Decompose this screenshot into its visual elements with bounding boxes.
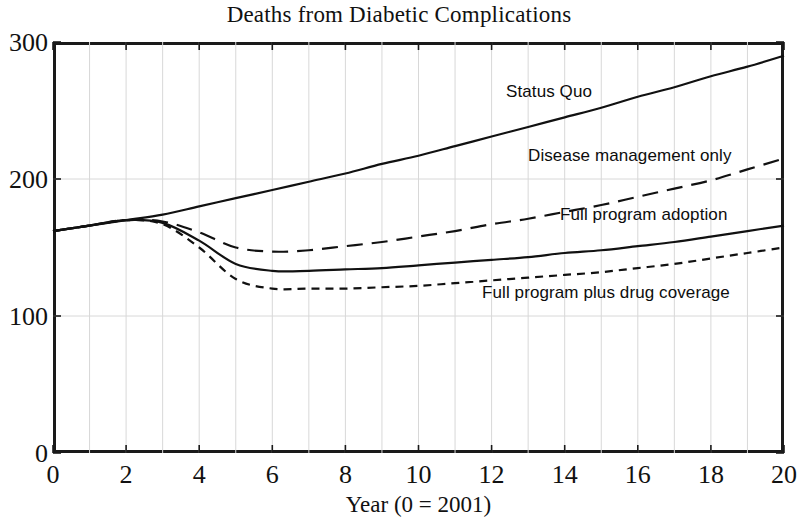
x-tick-label-text: 6 xyxy=(266,460,279,490)
x-tick-label-text: 16 xyxy=(625,460,651,490)
series-label-disease-management-only: Disease management only xyxy=(528,146,732,166)
x-tick-label-text: 10 xyxy=(406,460,432,490)
y-tick-label-text: 100 xyxy=(9,302,48,332)
y-tick-label-text: 200 xyxy=(9,165,48,195)
x-tick-label-text: 20 xyxy=(771,460,797,490)
series-label-full-program-adoption: Full program adoption xyxy=(560,205,727,225)
x-tick-label-text: 0 xyxy=(47,460,60,490)
series-label-status-quo: Status Quo xyxy=(506,82,592,102)
x-axis-label: Year (0 = 2001) xyxy=(53,492,784,518)
x-tick-label-text: 8 xyxy=(339,460,352,490)
vertical-gridlines xyxy=(90,42,748,453)
y-axis-tick-labels: 0100200300 xyxy=(0,0,48,515)
plot-canvas xyxy=(53,42,784,453)
x-tick-label-text: 14 xyxy=(552,460,578,490)
chart-title: Deaths from Diabetic Complications xyxy=(0,2,798,28)
series-label-full-program-plus-drug-coverage: Full program plus drug coverage xyxy=(482,283,730,303)
x-tick-label-text: 12 xyxy=(479,460,505,490)
x-tick-label-text: 2 xyxy=(120,460,133,490)
x-tick-label-text: 4 xyxy=(193,460,206,490)
x-tick-label-text: 18 xyxy=(698,460,724,490)
y-tick-label-text: 300 xyxy=(9,28,48,58)
